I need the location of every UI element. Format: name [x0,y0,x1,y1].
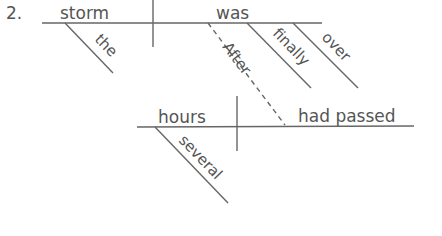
word-over: over [318,28,355,65]
word-storm: storm [60,3,109,23]
word-had-passed: had passed [298,106,396,126]
word-hours: hours [158,107,206,127]
word-the: the [91,30,121,60]
sentence-diagram: 2. storm was the After finally over hour… [0,0,442,236]
word-after: After [219,39,256,79]
word-finally: finally [269,24,314,69]
problem-number: 2. [6,3,22,23]
word-was: was [216,3,249,23]
